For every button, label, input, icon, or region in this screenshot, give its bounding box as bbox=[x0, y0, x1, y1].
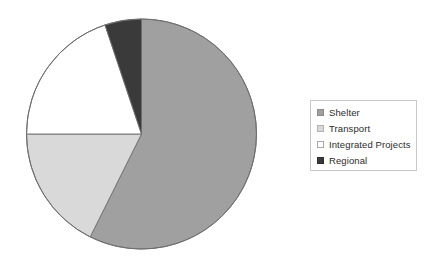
pie-chart-svg bbox=[0, 0, 290, 258]
legend-label-transport: Transport bbox=[329, 123, 370, 134]
legend-item-integrated-projects[interactable]: Integrated Projects bbox=[317, 137, 416, 152]
legend-item-shelter[interactable]: Shelter bbox=[317, 105, 416, 120]
legend-swatch-integrated-projects bbox=[317, 141, 324, 148]
pie-slice-group bbox=[27, 19, 257, 249]
chart-legend: Shelter Transport Integrated Projects Re… bbox=[310, 100, 417, 171]
legend-item-regional[interactable]: Regional bbox=[317, 153, 416, 168]
legend-item-transport[interactable]: Transport bbox=[317, 121, 416, 136]
legend-swatch-regional bbox=[317, 157, 324, 164]
legend-label-integrated-projects: Integrated Projects bbox=[329, 139, 411, 150]
legend-swatch-transport bbox=[317, 125, 324, 132]
legend-swatch-shelter bbox=[317, 109, 324, 116]
legend-label-regional: Regional bbox=[329, 155, 367, 166]
legend-label-shelter: Shelter bbox=[329, 107, 360, 118]
pie-chart bbox=[0, 0, 290, 258]
chart-canvas: Shelter Transport Integrated Projects Re… bbox=[0, 0, 439, 258]
